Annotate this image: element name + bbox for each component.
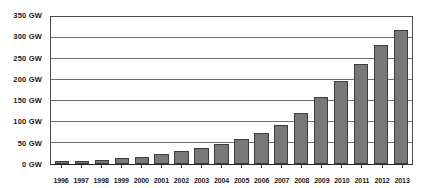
bar xyxy=(154,154,168,164)
x-label-slot: 2008 xyxy=(292,169,312,187)
x-tick-mark xyxy=(221,165,222,168)
x-tick-slot xyxy=(352,165,372,168)
bar xyxy=(135,157,149,164)
x-tick-label: 2006 xyxy=(254,177,269,184)
x-tick-label: 1999 xyxy=(114,177,129,184)
x-tick-marks xyxy=(50,165,413,168)
x-tick-slot xyxy=(252,165,272,168)
bar-slot xyxy=(132,17,152,164)
bar-slot xyxy=(72,17,92,164)
y-tick-label: 350 GW xyxy=(0,12,46,20)
x-tick-slot xyxy=(51,165,71,168)
x-tick-label: 2005 xyxy=(234,177,249,184)
bar-slot xyxy=(291,17,311,164)
bar-series xyxy=(51,17,412,164)
bar-slot xyxy=(92,17,112,164)
bar xyxy=(55,161,69,164)
bar-slot xyxy=(331,17,351,164)
x-tick-mark xyxy=(81,165,82,168)
x-label-slot: 2011 xyxy=(352,169,372,187)
x-tick-mark xyxy=(361,165,362,168)
bar xyxy=(194,148,208,164)
x-tick-label: 2009 xyxy=(314,177,329,184)
bar-slot xyxy=(192,17,212,164)
x-tick-mark xyxy=(61,165,62,168)
x-tick-mark xyxy=(402,165,403,168)
bar-slot xyxy=(351,17,371,164)
bar-slot xyxy=(371,17,391,164)
bar xyxy=(115,158,129,164)
x-label-slot: 2000 xyxy=(131,169,151,187)
bar xyxy=(75,161,89,164)
x-tick-slot xyxy=(151,165,171,168)
x-label-slot: 1999 xyxy=(111,169,131,187)
bar xyxy=(254,133,268,164)
bar xyxy=(374,45,388,164)
x-tick-label: 2007 xyxy=(274,177,289,184)
x-tick-label: 2002 xyxy=(174,177,189,184)
x-tick-mark xyxy=(281,165,282,168)
bar xyxy=(95,160,109,164)
x-tick-label: 2012 xyxy=(374,177,389,184)
x-axis: 1996199719981999200020012002200320042005… xyxy=(50,165,413,188)
x-label-slot: 2004 xyxy=(212,169,232,187)
x-tick-slot xyxy=(312,165,332,168)
y-tick-label: 50 GW xyxy=(0,140,46,148)
x-label-slot: 2009 xyxy=(312,169,332,187)
bar-slot xyxy=(212,17,232,164)
y-tick-label: 200 GW xyxy=(0,76,46,84)
bar xyxy=(234,139,248,164)
x-label-slot: 2005 xyxy=(232,169,252,187)
x-tick-slot xyxy=(332,165,352,168)
x-label-slot: 2001 xyxy=(151,169,171,187)
x-label-slot: 1997 xyxy=(71,169,91,187)
bar-chart: 0 GW50 GW100 GW150 GW200 GW250 GW300 GW3… xyxy=(0,0,430,188)
x-tick-mark xyxy=(301,165,302,168)
y-tick-label: 100 GW xyxy=(0,118,46,126)
x-tick-label: 2013 xyxy=(395,177,410,184)
x-tick-label: 1998 xyxy=(94,177,109,184)
x-tick-mark xyxy=(261,165,262,168)
x-label-slot: 2006 xyxy=(252,169,272,187)
x-tick-mark xyxy=(382,165,383,168)
y-tick-label: 300 GW xyxy=(0,33,46,41)
bar xyxy=(214,144,228,164)
x-tick-mark xyxy=(101,165,102,168)
x-tick-slot xyxy=(272,165,292,168)
x-tick-slot xyxy=(171,165,191,168)
bar-slot xyxy=(251,17,271,164)
x-tick-mark xyxy=(161,165,162,168)
bar-slot xyxy=(52,17,72,164)
x-tick-label: 1996 xyxy=(53,177,68,184)
x-tick-label: 2010 xyxy=(334,177,349,184)
x-tick-label: 1997 xyxy=(74,177,89,184)
x-tick-mark xyxy=(201,165,202,168)
bar xyxy=(394,30,408,164)
bar xyxy=(294,113,308,164)
bar-slot xyxy=(271,17,291,164)
x-tick-label: 2004 xyxy=(214,177,229,184)
x-label-slot: 1998 xyxy=(91,169,111,187)
bar-slot xyxy=(112,17,132,164)
x-tick-mark xyxy=(341,165,342,168)
plot-area xyxy=(50,16,413,165)
bar-slot xyxy=(172,17,192,164)
x-tick-slot xyxy=(372,165,392,168)
x-tick-slot xyxy=(392,165,412,168)
bar-slot xyxy=(391,17,411,164)
x-tick-label: 2001 xyxy=(154,177,169,184)
bar-slot xyxy=(152,17,172,164)
x-tick-mark xyxy=(181,165,182,168)
x-tick-label: 2011 xyxy=(355,177,370,184)
x-label-slot: 2002 xyxy=(171,169,191,187)
x-tick-slot xyxy=(232,165,252,168)
bar xyxy=(354,64,368,164)
x-tick-mark xyxy=(141,165,142,168)
x-tick-mark xyxy=(241,165,242,168)
y-axis: 0 GW50 GW100 GW150 GW200 GW250 GW300 GW3… xyxy=(0,0,46,188)
x-tick-mark xyxy=(321,165,322,168)
x-tick-slot xyxy=(111,165,131,168)
x-tick-slot xyxy=(191,165,211,168)
bar-slot xyxy=(231,17,251,164)
x-label-slot: 2010 xyxy=(332,169,352,187)
